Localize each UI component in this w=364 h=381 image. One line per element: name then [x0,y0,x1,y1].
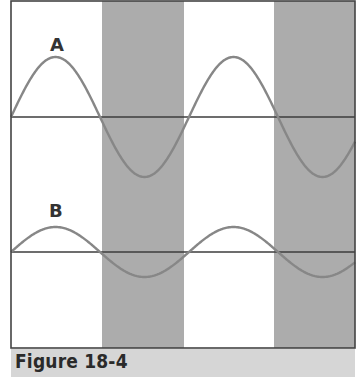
caption-bar: Figure 18-4 [11,349,355,377]
figure-caption: Figure 18-4 [15,350,128,372]
shaded-band-1 [102,1,184,348]
shaded-bands [102,1,355,348]
wave-a-label: A [50,34,64,55]
wave-figure [0,0,364,381]
wave-b-label: B [49,200,63,221]
